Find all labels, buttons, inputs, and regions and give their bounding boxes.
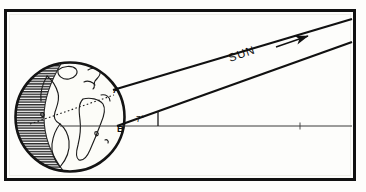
point-a-label: A	[113, 84, 120, 95]
astronomy-diagram-svg: SUN A B 7°	[0, 0, 366, 192]
figure-page: SUN A B 7°	[0, 0, 366, 192]
angle-label: 7°	[136, 114, 144, 124]
point-b-label: B	[117, 123, 124, 134]
earth-globe	[15, 62, 125, 172]
